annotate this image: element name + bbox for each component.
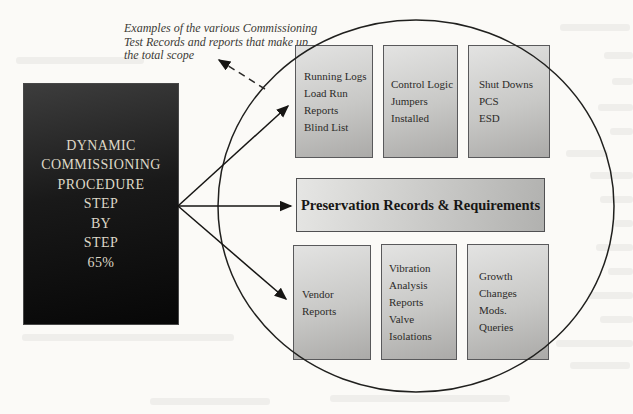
scan-bleed-artifact [22, 334, 234, 341]
scan-bleed-artifact [598, 104, 633, 111]
scan-bleed-artifact [604, 52, 633, 59]
arrow-to-top-row [178, 106, 288, 206]
box-vibration-analysis: Vibration Analysis Reports Valve Isolati… [381, 244, 457, 360]
box-line: Load Run [304, 85, 370, 102]
scan-bleed-artifact [330, 395, 510, 402]
scan-bleed-artifact [608, 268, 633, 275]
box-line: Growth [479, 268, 546, 285]
box-line: Vendor [302, 286, 368, 303]
box-line: Jumpers [391, 93, 455, 110]
scanned-diagram-page: Examples of the various Commissioning Te… [0, 0, 633, 414]
annotation-caption: Examples of the various Commissioning Te… [124, 22, 317, 63]
scan-bleed-artifact [570, 362, 630, 369]
box-line: Valve [389, 311, 454, 328]
box-line: Reports [304, 102, 370, 119]
annotation-caption-line: the total scope [124, 49, 317, 63]
dynamic-commissioning-line: PROCEDURE [58, 175, 145, 195]
scan-bleed-artifact [614, 220, 633, 227]
arrow-to-bottom-row [178, 206, 286, 299]
annotation-caption-line: Examples of the various Commissioning [124, 22, 317, 36]
box-vendor-reports: Vendor Reports [293, 245, 371, 360]
scan-bleed-artifact [612, 78, 633, 85]
box-line: Queries [479, 319, 546, 336]
dynamic-commissioning-box: DYNAMIC COMMISSIONING PROCEDURE STEP BY … [23, 83, 179, 325]
box-line: PCS [479, 93, 547, 110]
box-running-logs: Running Logs Load Run Reports Blind List [295, 45, 373, 158]
scan-bleed-artifact [600, 316, 633, 323]
box-growth-changes: Growth Changes Mods. Queries [467, 244, 549, 360]
dynamic-commissioning-line: DYNAMIC [66, 136, 136, 156]
box-line: Installed [391, 110, 455, 127]
box-line: Mods. [479, 302, 546, 319]
box-line: Blind List [304, 119, 370, 136]
scan-bleed-artifact [588, 292, 633, 299]
box-line: Isolations [389, 328, 454, 345]
dashed-annotation-arrow [219, 60, 265, 89]
dynamic-commissioning-line: STEP [84, 194, 118, 214]
dynamic-commissioning-line: 65% [88, 253, 115, 273]
box-line: Shut Downs [479, 76, 547, 93]
box-line: Running Logs [304, 68, 370, 85]
box-shut-downs: Shut Downs PCS ESD [468, 45, 550, 158]
annotation-caption-line: Test Records and reports that make up [124, 36, 317, 50]
dynamic-commissioning-line: STEP [84, 233, 118, 253]
scan-bleed-artifact [590, 172, 633, 179]
preservation-records-label: Preservation Records & Requirements [301, 197, 540, 214]
scan-bleed-artifact [566, 150, 608, 157]
box-line: Reports [302, 303, 368, 320]
scan-bleed-artifact [556, 340, 633, 347]
box-line: Changes [479, 285, 546, 302]
scan-bleed-artifact [560, 24, 630, 31]
dynamic-commissioning-line: BY [91, 214, 111, 234]
scan-bleed-artifact [610, 128, 633, 135]
box-control-logic: Control Logic Jumpers Installed [383, 45, 458, 158]
box-line: ESD [479, 110, 547, 127]
scan-bleed-artifact [150, 398, 270, 405]
box-line: Reports [389, 294, 454, 311]
box-line: Vibration [389, 260, 454, 277]
bar-preservation-records: Preservation Records & Requirements [296, 178, 545, 232]
box-line: Control Logic [391, 76, 455, 93]
scan-bleed-artifact [596, 244, 633, 251]
scan-bleed-artifact [600, 196, 633, 203]
dynamic-commissioning-line: COMMISSIONING [41, 155, 161, 175]
box-line: Analysis [389, 277, 454, 294]
